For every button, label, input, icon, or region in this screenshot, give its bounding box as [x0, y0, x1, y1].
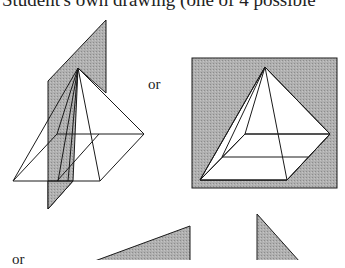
- or-label-bottom: or: [12, 251, 25, 268]
- pyramid-parallel-figure: [192, 58, 337, 188]
- or-label-top: or: [148, 76, 161, 93]
- cross-section-triangle-2: [257, 214, 300, 260]
- pyramid-diagonal-figure: [13, 20, 144, 209]
- cross-section-triangle-1: [92, 226, 190, 260]
- diagonal-plane-lower: [48, 181, 73, 209]
